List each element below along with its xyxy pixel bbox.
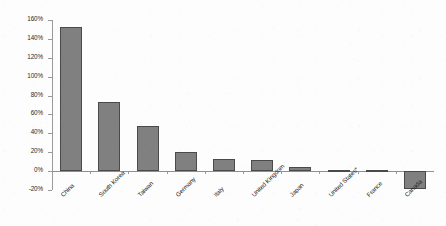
bar-united-states [328, 170, 350, 172]
bar-china [60, 27, 82, 172]
y-axis-tick: 40% [48, 133, 52, 134]
y-axis-tick: 80% [48, 96, 52, 97]
bar-germany [175, 152, 197, 171]
y-axis-tick-label: 120% [27, 53, 43, 60]
x-axis-tick [396, 171, 397, 174]
y-axis-tick-label: 140% [27, 34, 43, 41]
y-axis-tick: 160% [48, 20, 52, 21]
y-axis-tick-label: 100% [27, 72, 43, 79]
bar-italy [213, 159, 235, 171]
x-axis-tick [52, 171, 53, 174]
x-axis-tick [90, 171, 91, 174]
y-axis-tick-label: 40% [31, 128, 43, 135]
y-axis-tick-label: 80% [31, 91, 43, 98]
plot-area: -20%0%20%40%60%80%100%120%140%160% [52, 20, 434, 190]
bar-united-kingdom [251, 160, 273, 171]
bar-taiwan [137, 126, 159, 171]
y-axis-tick: 140% [48, 39, 52, 40]
bar-france [366, 170, 388, 172]
x-axis-tick [167, 171, 168, 174]
x-axis-tick [243, 171, 244, 174]
bar-south-korea [98, 102, 120, 171]
y-axis-tick: -20% [48, 190, 52, 191]
y-axis-tick-label: -20% [29, 185, 43, 192]
y-axis-tick: 60% [48, 114, 52, 115]
y-axis-tick: 100% [48, 77, 52, 78]
y-axis-tick-label: 0% [34, 166, 43, 173]
y-axis-tick-label: 20% [31, 147, 43, 154]
x-axis-tick [319, 171, 320, 174]
x-axis-labels: ChinaSouth KoreaTaiwanGermanyItalyUnited… [52, 193, 434, 226]
bar-japan [289, 167, 311, 171]
x-axis-tick [128, 171, 129, 174]
y-axis-tick: 120% [48, 58, 52, 59]
y-axis-tick-label: 60% [31, 109, 43, 116]
y-axis-tick-label: 160% [27, 15, 43, 22]
y-axis-line [52, 20, 53, 190]
bar-chart-figure: -20%0%20%40%60%80%100%120%140%160% China… [0, 0, 446, 226]
x-axis-tick [205, 171, 206, 174]
y-axis-tick: 20% [48, 152, 52, 153]
